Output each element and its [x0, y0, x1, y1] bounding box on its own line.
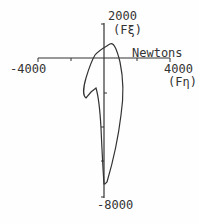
- force-curve: [84, 44, 123, 184]
- y-min-label: -8000: [97, 199, 133, 211]
- x-max-label: 4000: [164, 63, 193, 75]
- y-axis-name: (Fξ): [113, 24, 142, 36]
- x-axis-sub: (Fη): [168, 76, 197, 88]
- plot-canvas: [0, 0, 199, 224]
- force-plot: 2000 (Fξ) -4000 Newtons 4000 (Fη) -8000: [0, 0, 199, 224]
- y-max-label: 2000: [108, 10, 137, 22]
- x-axis-name: Newtons: [132, 47, 183, 59]
- x-min-label: -4000: [10, 63, 46, 75]
